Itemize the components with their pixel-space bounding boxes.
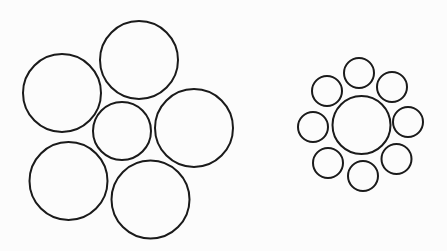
ebbinghaus-illusion-figure xyxy=(0,0,447,251)
background xyxy=(0,0,447,251)
